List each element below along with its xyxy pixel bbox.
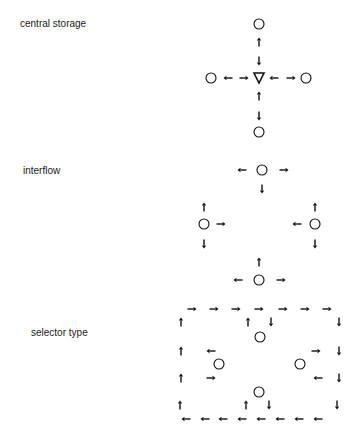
node-circle-icon	[295, 359, 305, 369]
arrow-right-icon	[287, 76, 296, 80]
arrow-down-icon	[257, 57, 261, 66]
arrow-up-icon	[313, 203, 317, 212]
arrow-down-icon	[269, 318, 273, 327]
arrow-left-icon	[234, 278, 243, 282]
arrow-left-icon	[314, 417, 323, 421]
arrow-down-icon	[313, 240, 317, 249]
arrow-left-icon	[293, 222, 302, 226]
node-circle-icon	[310, 219, 320, 229]
arrow-right-icon	[279, 307, 288, 311]
arrow-down-icon	[257, 112, 261, 121]
arrow-right-icon	[312, 349, 321, 353]
arrow-up-icon	[179, 374, 183, 383]
arrow-down-icon	[337, 318, 341, 327]
arrow-right-icon	[232, 307, 241, 311]
arrow-up-icon	[202, 203, 206, 212]
arrow-down-icon	[202, 240, 206, 249]
arrow-up-icon	[257, 258, 261, 267]
node-circle-icon	[254, 19, 264, 29]
arrow-left-icon	[207, 349, 216, 353]
arrow-left-icon	[314, 376, 323, 380]
arrow-up-icon	[178, 401, 182, 410]
panel-selector-type	[178, 307, 341, 421]
node-circle-icon	[206, 73, 216, 83]
arrow-down-icon	[337, 374, 341, 383]
arrow-left-icon	[238, 417, 247, 421]
arrow-right-icon	[323, 307, 332, 311]
arrow-up-icon	[244, 401, 248, 410]
arrow-left-icon	[257, 417, 266, 421]
storage-triangle-icon	[254, 73, 264, 83]
arrow-up-icon	[257, 38, 261, 47]
node-circle-icon	[254, 387, 264, 397]
flow-diagram	[0, 0, 358, 437]
node-circle-icon	[255, 332, 265, 342]
arrow-left-icon	[182, 417, 191, 421]
arrow-left-icon	[270, 76, 279, 80]
panel-central-storage	[206, 19, 311, 137]
arrow-right-icon	[188, 307, 197, 311]
arrow-down-icon	[337, 347, 341, 356]
panel-interflow	[199, 165, 320, 285]
arrow-down-icon	[260, 185, 264, 194]
arrow-up-icon	[246, 318, 250, 327]
arrow-right-icon	[240, 76, 249, 80]
arrow-down-icon	[267, 401, 271, 410]
arrow-right-icon	[217, 222, 226, 226]
node-circle-icon	[214, 359, 224, 369]
node-circle-icon	[301, 73, 311, 83]
arrow-right-icon	[210, 307, 219, 311]
arrow-left-icon	[295, 417, 304, 421]
arrow-up-icon	[257, 92, 261, 101]
arrow-left-icon	[219, 417, 228, 421]
node-circle-icon	[199, 219, 209, 229]
arrow-right-icon	[280, 168, 289, 172]
arrow-left-icon	[224, 76, 233, 80]
node-circle-icon	[254, 275, 264, 285]
arrow-down-icon	[335, 401, 339, 410]
arrow-left-icon	[238, 168, 247, 172]
arrow-up-icon	[179, 347, 183, 356]
arrow-right-icon	[207, 376, 216, 380]
arrow-right-icon	[255, 307, 264, 311]
arrow-left-icon	[276, 417, 285, 421]
arrow-right-icon	[277, 278, 286, 282]
node-circle-icon	[257, 165, 267, 175]
arrow-left-icon	[201, 417, 210, 421]
arrow-up-icon	[179, 318, 183, 327]
node-circle-icon	[254, 127, 264, 137]
arrow-right-icon	[301, 307, 310, 311]
